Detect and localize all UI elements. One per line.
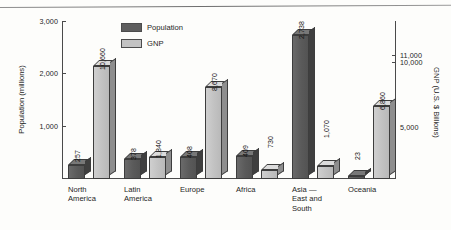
bar-value-population-africa: 409 xyxy=(241,145,248,157)
y-axis-left-title: Population (millions) xyxy=(17,52,26,148)
bar-gnp-oceania: 6,860 xyxy=(373,106,390,179)
bar-value-population-oceania: 23 xyxy=(353,152,360,160)
y-tick-label-right-10000: 10,000 xyxy=(400,58,423,67)
plot-area: 257 10,660 378 1,840 408 8,670 409 xyxy=(62,21,396,179)
bar-population-north-america: 257 xyxy=(68,165,85,179)
category-label-latin-america: Latin America xyxy=(124,185,152,204)
category-label-europe: Europe xyxy=(180,185,205,194)
bar-value-gnp-oceania: 6,860 xyxy=(378,92,385,110)
bar-value-gnp-europe: 8,670 xyxy=(210,73,217,91)
y-tick-label-right-5000: 5,000 xyxy=(400,123,419,132)
bar-value-gnp-asia: 1,070 xyxy=(322,120,329,138)
bar-population-africa: 409 xyxy=(236,156,253,179)
bar-value-population-europe: 408 xyxy=(185,146,192,158)
bar-population-europe: 408 xyxy=(180,157,197,179)
bar-gnp-latin-america: 1,840 xyxy=(149,157,166,179)
category-label-asia: Asia — East and South xyxy=(292,185,322,213)
bar-value-population-north-america: 257 xyxy=(73,150,80,162)
bar-gnp-north-america: 10,660 xyxy=(93,66,110,179)
bar-population-latin-america: 378 xyxy=(124,159,141,179)
grouped-bar-chart: 3,000 2,000 1,000 11,000 10,000 5,000 Po… xyxy=(0,0,451,230)
y-axis-right-title: GNP (U.S. $ Billions) xyxy=(432,55,441,151)
category-label-north-america: North America xyxy=(68,185,96,204)
category-label-africa: Africa xyxy=(236,185,255,194)
bar-gnp-asia: 1,070 xyxy=(317,166,334,179)
header-rule xyxy=(0,5,451,8)
bar-value-population-latin-america: 378 xyxy=(129,148,136,160)
bar-gnp-africa: 730 xyxy=(261,170,278,179)
bar-value-gnp-latin-america: 1,840 xyxy=(154,140,161,158)
bar-population-oceania: 23 xyxy=(348,176,365,179)
bar-population-asia: 2,738 xyxy=(292,35,309,179)
bar-value-gnp-north-america: 10,660 xyxy=(98,48,105,70)
bar-value-gnp-africa: 730 xyxy=(266,136,273,148)
category-label-oceania: Oceania xyxy=(348,185,376,194)
y-tick-label-left-3000: 3,000 xyxy=(14,17,58,26)
bar-gnp-europe: 8,670 xyxy=(205,87,222,179)
bar-value-population-asia: 2,738 xyxy=(297,21,304,39)
